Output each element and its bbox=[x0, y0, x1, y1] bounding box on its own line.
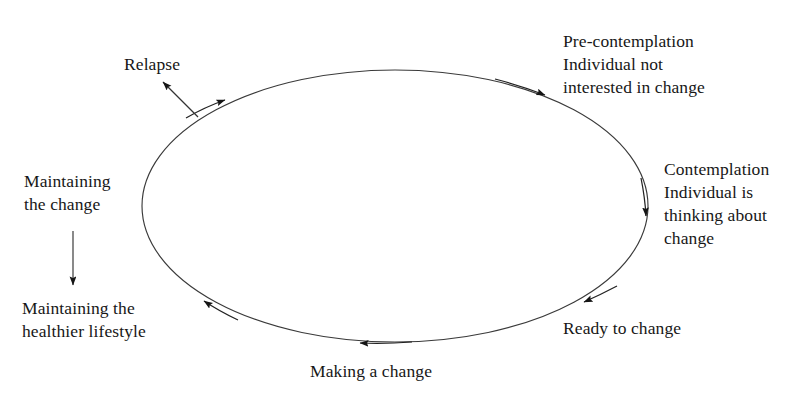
cycle-arrow-contemplation bbox=[641, 178, 646, 216]
cycle-of-change-diagram: Pre-contemplation Individual not interes… bbox=[0, 0, 808, 400]
label-ready-to-change: Ready to change bbox=[563, 317, 681, 340]
label-contemplation: Contemplation Individual is thinking abo… bbox=[664, 158, 769, 250]
label-maintaining-the-change: Maintaining the change bbox=[24, 170, 111, 216]
cycle-ellipse bbox=[142, 70, 648, 342]
label-pre-contemplation: Pre-contemplation Individual not interes… bbox=[563, 30, 705, 99]
label-relapse: Relapse bbox=[124, 53, 180, 76]
relapse-arrow bbox=[163, 82, 198, 117]
cycle-arrow-precontemplation bbox=[495, 79, 545, 95]
label-maintaining-healthier-lifestyle: Maintaining the healthier lifestyle bbox=[22, 297, 146, 343]
label-making-a-change: Making a change bbox=[310, 360, 432, 383]
